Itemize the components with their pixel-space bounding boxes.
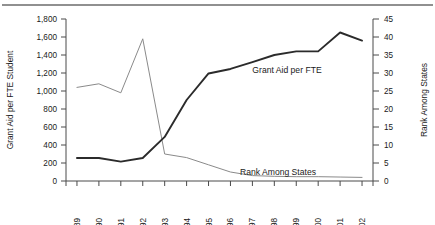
left-axis-tick-labels: 02004006008001,0001,2001,4001,6001,800 bbox=[37, 15, 58, 186]
x-tick-label: 1993 bbox=[161, 218, 170, 225]
x-tick-label: 1999 bbox=[292, 218, 301, 225]
series-annotation-rank: Rank Among States bbox=[240, 167, 316, 177]
right-tick-label: 30 bbox=[384, 69, 394, 78]
x-tick-label: 1992 bbox=[139, 218, 148, 225]
x-tick-label: 1998 bbox=[270, 218, 279, 225]
series-annotation-grant-aid: Grant Aid per FTE bbox=[252, 65, 322, 75]
left-tick-label: 0 bbox=[52, 177, 57, 186]
right-tick-label: 5 bbox=[384, 159, 389, 168]
x-tick-label: 2001 bbox=[336, 218, 345, 225]
x-tick-label: 1991 bbox=[117, 218, 126, 225]
right-tick-label: 25 bbox=[384, 87, 394, 96]
left-tick-label: 200 bbox=[43, 159, 57, 168]
line-chart: 02004006008001,0001,2001,4001,6001,800 0… bbox=[0, 0, 435, 225]
left-tick-label: 400 bbox=[43, 141, 57, 150]
left-tick-label: 1,400 bbox=[37, 51, 58, 60]
left-axis-title: Grant Aid per FTE Student bbox=[5, 50, 15, 149]
right-tick-label: 15 bbox=[384, 123, 394, 132]
right-axis-ticks bbox=[373, 19, 379, 181]
x-tick-label: 1995 bbox=[205, 218, 214, 225]
left-tick-label: 1,000 bbox=[37, 87, 58, 96]
right-tick-label: 35 bbox=[384, 51, 394, 60]
left-tick-label: 1,600 bbox=[37, 33, 58, 42]
x-tick-label: 2000 bbox=[314, 218, 323, 225]
right-axis-tick-labels: 051015202530354045 bbox=[384, 15, 394, 186]
right-tick-label: 10 bbox=[384, 141, 394, 150]
x-tick-label: 1989 bbox=[73, 218, 82, 225]
left-tick-label: 800 bbox=[43, 105, 57, 114]
series-line-grant-aid-per-fte bbox=[77, 33, 362, 162]
right-tick-label: 20 bbox=[384, 105, 394, 114]
left-tick-label: 1,200 bbox=[37, 69, 58, 78]
x-tick-label: 1994 bbox=[183, 218, 192, 225]
x-axis-ticks bbox=[66, 181, 373, 186]
x-tick-label: 1996 bbox=[226, 218, 235, 225]
x-tick-label: 1997 bbox=[248, 218, 257, 225]
series-line-rank-among-states bbox=[77, 39, 362, 178]
right-axis-title: Rank Among States bbox=[419, 63, 429, 137]
left-tick-label: 1,800 bbox=[37, 15, 58, 24]
x-axis-tick-labels: 1989199019911992199319941995199619971998… bbox=[73, 218, 367, 225]
x-tick-label: 1990 bbox=[95, 218, 104, 225]
right-tick-label: 40 bbox=[384, 33, 394, 42]
x-tick-label: 2002 bbox=[358, 218, 367, 225]
left-axis-ticks bbox=[61, 19, 66, 181]
left-tick-label: 600 bbox=[43, 123, 57, 132]
chart-figure: 02004006008001,0001,2001,4001,6001,800 0… bbox=[0, 0, 435, 225]
right-tick-label: 45 bbox=[384, 15, 394, 24]
right-tick-label: 0 bbox=[384, 177, 389, 186]
